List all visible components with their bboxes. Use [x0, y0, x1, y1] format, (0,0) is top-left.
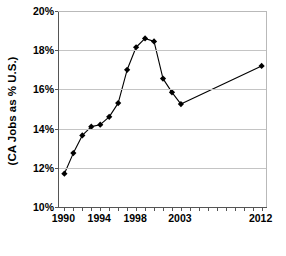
- x-axis-tick-label: 1990: [52, 212, 75, 224]
- x-axis-tickmark: [118, 207, 119, 211]
- x-axis-tick-label: 2012: [249, 212, 272, 224]
- x-axis-tickmark: [190, 207, 191, 211]
- x-axis-tick-label: 1998: [123, 212, 146, 224]
- x-axis-tickmark: [145, 207, 146, 211]
- series-line: [64, 38, 261, 173]
- y-axis-tick-label: 12%: [20, 162, 54, 174]
- gridline-y: [59, 50, 267, 51]
- data-point-marker: [61, 171, 67, 177]
- x-axis-tickmark: [127, 207, 128, 211]
- x-axis-tick-label: 1994: [88, 212, 111, 224]
- x-axis-tickmark: [253, 207, 254, 211]
- x-axis-tickmark: [244, 207, 245, 211]
- y-axis-tick-label: 14%: [20, 123, 54, 135]
- x-axis-tickmark: [181, 207, 182, 211]
- gridline-y: [59, 129, 267, 130]
- y-axis-tickmark: [55, 168, 59, 169]
- y-axis-tick-label: 20%: [20, 5, 54, 17]
- y-axis-tick-label: 16%: [20, 83, 54, 95]
- x-axis-tickmark: [217, 207, 218, 211]
- y-axis-tick-label: 18%: [20, 44, 54, 56]
- x-axis-tickmark: [91, 207, 92, 211]
- plot-area: [58, 11, 267, 208]
- y-axis-tickmark: [55, 89, 59, 90]
- x-axis-tickmark: [172, 207, 173, 211]
- data-point-marker: [124, 67, 130, 73]
- x-axis-tickmark: [136, 207, 137, 211]
- x-axis-tickmark: [262, 207, 263, 211]
- series-line-svg: [59, 11, 267, 207]
- y-axis-tickmark: [55, 129, 59, 130]
- x-axis-tickmark: [208, 207, 209, 211]
- x-axis-tickmark: [154, 207, 155, 211]
- x-axis-tickmark: [226, 207, 227, 211]
- x-axis-tickmark: [163, 207, 164, 211]
- x-axis-tickmark: [199, 207, 200, 211]
- plot-frame-right-border: [266, 11, 267, 207]
- data-point-marker: [151, 38, 157, 44]
- chart-figure: (CA Jobs as % U.S.) 10%12%14%16%18%20% 1…: [0, 0, 286, 256]
- gridline-y: [59, 168, 267, 169]
- gridline-y: [59, 89, 267, 90]
- data-point-marker: [70, 150, 76, 156]
- data-point-marker: [160, 76, 166, 82]
- y-axis-tickmark: [55, 50, 59, 51]
- data-point-marker: [259, 63, 265, 69]
- x-axis-tick-labels: 19901994199820032012: [0, 212, 286, 232]
- x-axis-tick-label: 2003: [168, 212, 191, 224]
- y-axis-title-text: (CA Jobs as % U.S.): [6, 57, 18, 166]
- x-axis-tickmark: [100, 207, 101, 211]
- x-axis-tickmark: [73, 207, 74, 211]
- plot-frame-top-border: [58, 11, 266, 12]
- x-axis-tickmark: [235, 207, 236, 211]
- x-axis-tickmark: [82, 207, 83, 211]
- x-axis-tickmark: [64, 207, 65, 211]
- x-axis-tickmark: [109, 207, 110, 211]
- data-point-marker: [115, 100, 121, 106]
- y-axis-tickmark: [55, 207, 59, 208]
